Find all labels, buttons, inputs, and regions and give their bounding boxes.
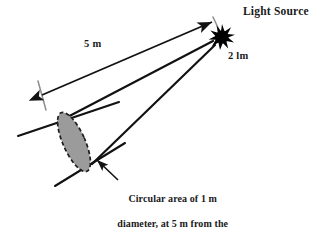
distance-dimension-arrow	[42, 22, 212, 95]
circular-area-shape	[51, 108, 97, 175]
light-source-label: Light Source	[243, 5, 309, 18]
distance-label: 5 m	[84, 38, 102, 50]
caption-pointer-arrow	[97, 160, 118, 180]
dimension-tick-near	[38, 81, 46, 110]
caption-line-1: Circular area of 1 m	[128, 193, 217, 204]
luminous-flux-label: 2 lm	[228, 50, 248, 62]
light-source-icon	[209, 24, 235, 50]
caption-line-2: diameter, at 5 m from the	[117, 218, 228, 229]
cone-ray-upper	[58, 41, 213, 122]
figure-root: Light Source 2 lm 5 m Circular area of 1…	[0, 0, 333, 229]
circular-area-caption: Circular area of 1 m diameter, at 5 m fr…	[60, 180, 275, 229]
